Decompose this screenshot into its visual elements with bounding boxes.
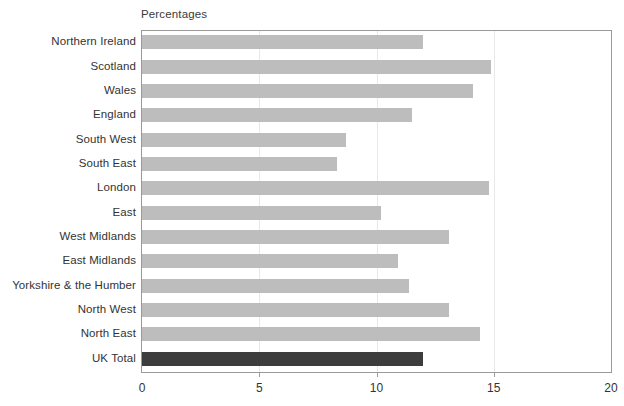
bar bbox=[142, 254, 398, 268]
category-label: South East bbox=[0, 156, 136, 170]
category-label: Yorkshire & the Humber bbox=[0, 278, 136, 292]
bar-chart: Percentages Northern IrelandScotlandWale… bbox=[0, 0, 624, 406]
gridline bbox=[494, 31, 495, 372]
category-label: England bbox=[0, 107, 136, 121]
gridline bbox=[259, 31, 260, 372]
category-label: Wales bbox=[0, 83, 136, 97]
tick-label: 15 bbox=[487, 381, 500, 395]
bar bbox=[142, 84, 473, 98]
category-label: East Midlands bbox=[0, 253, 136, 267]
category-label: Scotland bbox=[0, 59, 136, 73]
category-label: South West bbox=[0, 132, 136, 146]
plot-area bbox=[141, 30, 612, 373]
category-label: UK Total bbox=[0, 351, 136, 365]
category-label: Northern Ireland bbox=[0, 34, 136, 48]
category-label: East bbox=[0, 205, 136, 219]
category-label: West Midlands bbox=[0, 229, 136, 243]
category-label: London bbox=[0, 180, 136, 194]
bar bbox=[142, 181, 489, 195]
tick-label: 10 bbox=[370, 381, 383, 395]
tick-mark bbox=[494, 373, 495, 377]
tick-mark bbox=[259, 373, 260, 377]
bar bbox=[142, 157, 337, 171]
gridline bbox=[377, 31, 378, 372]
chart-axis-title: Percentages bbox=[141, 8, 207, 20]
tick-label: 20 bbox=[604, 381, 617, 395]
tick-label: 5 bbox=[256, 381, 263, 395]
bar bbox=[142, 60, 491, 74]
bar bbox=[142, 230, 449, 244]
bar bbox=[142, 303, 449, 317]
bar bbox=[142, 35, 423, 49]
bar bbox=[142, 206, 381, 220]
bar bbox=[142, 352, 423, 366]
tick-mark bbox=[377, 373, 378, 377]
bar bbox=[142, 327, 480, 341]
category-label: North West bbox=[0, 302, 136, 316]
value-axis: 05101520 bbox=[141, 373, 612, 406]
category-label: North East bbox=[0, 326, 136, 340]
bar bbox=[142, 279, 409, 293]
tick-label: 0 bbox=[139, 381, 146, 395]
bar bbox=[142, 133, 346, 147]
category-axis-labels: Northern IrelandScotlandWalesEnglandSout… bbox=[0, 30, 136, 373]
bar bbox=[142, 108, 412, 122]
